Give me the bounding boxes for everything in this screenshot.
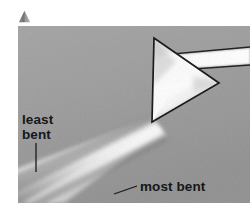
prism-photo: least bent most bent: [18, 26, 250, 203]
triangle-bullet-icon: [18, 10, 31, 23]
prism-photo-canvas: least bent most bent: [18, 26, 250, 203]
prism-dispersion-figure: least bent most bent: [0, 0, 250, 219]
photo-grain-overlay: [18, 26, 250, 203]
